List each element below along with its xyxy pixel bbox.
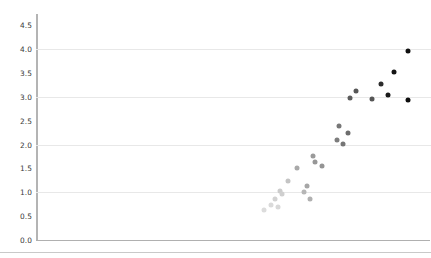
data-point <box>302 190 307 195</box>
data-point <box>405 98 410 103</box>
y-tick-label: 4.0 <box>20 45 32 54</box>
data-point <box>392 69 397 74</box>
y-tick-label: 0.0 <box>20 236 32 245</box>
y-tick-label: 3.0 <box>20 92 32 101</box>
data-point <box>285 178 290 183</box>
data-point <box>348 96 353 101</box>
data-point <box>261 207 266 212</box>
data-point <box>310 154 315 159</box>
data-point <box>304 184 309 189</box>
bottom-divider-rule <box>0 252 431 253</box>
y-axis-tick-labels: 4.54.03.53.02.52.01.51.00.50.0 <box>0 0 32 258</box>
data-point <box>340 141 345 146</box>
data-point <box>345 130 350 135</box>
data-point <box>385 93 390 98</box>
y-tick-label: 2.0 <box>20 140 32 149</box>
data-point <box>269 202 274 207</box>
gridline <box>36 192 431 193</box>
data-point <box>335 137 340 142</box>
y-tick-label: 1.5 <box>20 164 32 173</box>
data-point <box>337 124 342 129</box>
y-tick-label: 1.0 <box>20 188 32 197</box>
data-point <box>272 196 277 201</box>
data-point <box>307 196 312 201</box>
y-tick-label: 0.5 <box>20 212 32 221</box>
data-point <box>295 166 300 171</box>
gridline <box>36 145 431 146</box>
plot-area <box>36 14 431 240</box>
data-point <box>369 97 374 102</box>
data-point <box>320 164 325 169</box>
data-point <box>354 89 359 94</box>
data-point <box>405 49 410 54</box>
data-point <box>379 81 384 86</box>
scatter-plot-figure: 4.54.03.53.02.52.01.51.00.50.0 <box>0 0 431 258</box>
data-point <box>312 160 317 165</box>
data-point <box>275 204 280 209</box>
data-point <box>280 192 285 197</box>
y-tick-label: 3.5 <box>20 69 32 78</box>
y-tick-label: 4.5 <box>20 21 32 30</box>
gridline <box>36 49 431 50</box>
y-tick-label: 2.5 <box>20 116 32 125</box>
